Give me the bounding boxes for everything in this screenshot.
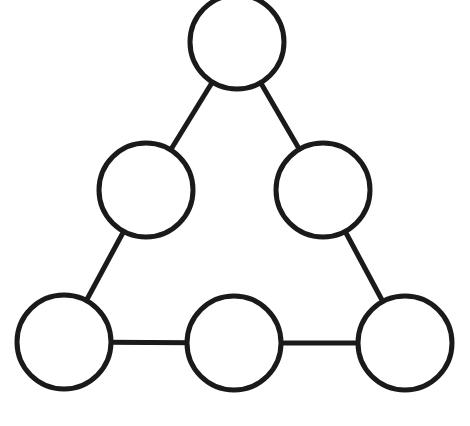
triangle-graph-diagram: [0, 0, 470, 426]
nodes: [17, 0, 452, 390]
node-bottom-mid: [187, 296, 281, 390]
node-mid-right: [276, 143, 370, 237]
node-bottom-right: [358, 296, 452, 390]
node-mid-left: [99, 143, 193, 237]
node-top: [190, 0, 284, 89]
node-bottom-left: [17, 295, 111, 389]
